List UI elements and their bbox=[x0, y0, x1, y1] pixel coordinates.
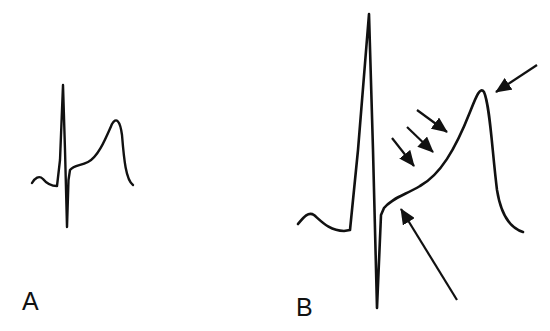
panel-b-label: B bbox=[296, 295, 313, 320]
st-slope-arrow-icon bbox=[417, 110, 447, 132]
panel-b-annotation-arrows bbox=[392, 65, 537, 300]
ecg-figure: A B bbox=[0, 0, 550, 331]
t-wave-peak-arrow-icon bbox=[496, 65, 537, 92]
ecg-diagram-svg bbox=[0, 0, 550, 331]
st-slope-arrow-icon bbox=[392, 138, 414, 166]
panel-a-label: A bbox=[22, 289, 39, 314]
j-point-arrow-icon bbox=[401, 209, 457, 300]
panel-a-ecg-trace bbox=[32, 85, 133, 227]
st-slope-arrow-icon bbox=[407, 127, 433, 152]
